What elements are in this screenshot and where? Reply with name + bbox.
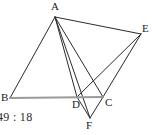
- segment-C-F: [90, 97, 103, 118]
- vertex-label-A: A: [51, 1, 59, 12]
- ratio-caption: 49 : 18: [0, 110, 32, 124]
- vertex-label-C: C: [105, 97, 112, 108]
- geometry-figure-canvas: A B C D E F 49 : 18: [0, 0, 152, 135]
- segment-B-C: [10, 97, 103, 98]
- vertex-label-D: D: [72, 99, 80, 110]
- vertex-label-B: B: [1, 92, 8, 103]
- segment-A-B: [10, 17, 55, 98]
- segment-A-E: [55, 17, 141, 34]
- vertex-label-E: E: [142, 23, 149, 34]
- segment-A-D: [55, 17, 77, 97]
- vertex-label-F: F: [86, 120, 92, 131]
